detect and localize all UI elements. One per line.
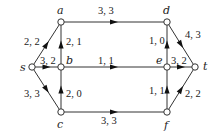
node-label: s	[20, 61, 26, 74]
node-t: t	[192, 60, 208, 73]
node-label: c	[57, 118, 63, 131]
edges-group: 2, 23, 23, 32, 12, 03, 31, 13, 31, 01, 1…	[24, 5, 201, 126]
node-label: e	[156, 54, 163, 67]
arrowhead-icon	[177, 40, 186, 50]
edge-e-t: 3, 2	[167, 55, 195, 70]
arrowhead-icon	[164, 41, 169, 49]
edge-capacity-flow-label: 3, 3	[98, 5, 114, 16]
edge-capacity-flow-label: 3, 2	[40, 55, 56, 66]
edge-a-d: 3, 3	[61, 5, 167, 25]
node-label: d	[163, 4, 170, 17]
edge-capacity-flow-label: 2, 1	[66, 36, 82, 47]
edge-b-e: 1, 1	[61, 55, 167, 70]
node-label: t	[203, 60, 208, 73]
edge-capacity-flow-label: 3, 3	[24, 88, 40, 99]
node-f: f	[163, 109, 170, 132]
arrowhead-icon	[110, 19, 118, 24]
node-a: a	[57, 4, 64, 25]
node-circle	[58, 109, 64, 115]
edge-f-t: 2, 2	[167, 67, 201, 112]
edge-capacity-flow-label: 2, 2	[185, 88, 201, 99]
node-circle	[58, 19, 64, 25]
node-circle	[192, 64, 198, 70]
edge-capacity-flow-label: 2, 0	[66, 88, 82, 99]
arrowhead-icon	[58, 41, 63, 49]
node-circle	[164, 109, 170, 115]
node-c: c	[57, 109, 64, 131]
node-label: f	[163, 119, 170, 132]
arrowhead-icon	[164, 86, 169, 94]
edge-capacity-flow-label: 4, 3	[185, 29, 201, 40]
node-label: a	[57, 4, 64, 17]
edge-capacity-flow-label: 1, 0	[149, 35, 165, 46]
arrowhead-icon	[58, 86, 63, 94]
arrowhead-icon	[110, 109, 118, 114]
flow-network-diagram: 2, 23, 23, 32, 12, 03, 31, 13, 31, 01, 1…	[0, 0, 223, 135]
edge-c-b: 2, 0	[58, 67, 81, 112]
node-e: e	[156, 54, 170, 70]
node-circle	[29, 64, 35, 70]
edge-c-f: 3, 3	[61, 109, 167, 126]
node-circle	[164, 19, 170, 25]
node-circle	[164, 64, 170, 70]
edge-capacity-flow-label: 2, 2	[24, 36, 40, 47]
arrowhead-icon	[42, 85, 51, 95]
edge-s-b: 3, 2	[32, 55, 61, 70]
edge-capacity-flow-label: 3, 2	[171, 55, 187, 66]
edge-f-e: 1, 1	[149, 67, 170, 112]
edge-capacity-flow-label: 3, 3	[101, 115, 117, 126]
node-label: b	[66, 54, 73, 67]
edge-s-c: 3, 3	[24, 67, 61, 112]
node-d: d	[163, 4, 170, 25]
arrowhead-icon	[42, 40, 51, 50]
edge-capacity-flow-label: 1, 1	[98, 55, 114, 66]
edge-capacity-flow-label: 1, 1	[149, 85, 165, 96]
node-circle	[58, 64, 64, 70]
node-s: s	[20, 61, 35, 74]
node-b: b	[58, 54, 73, 70]
